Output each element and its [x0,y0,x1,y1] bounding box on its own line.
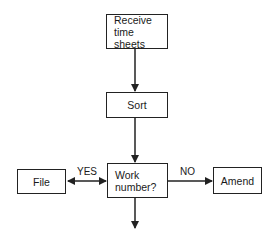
sort-box: Sort [106,92,168,118]
no-edge-label: NO [180,166,195,177]
amend-box: Amend [213,167,262,194]
receive-time-sheets-label: Receive time sheets [114,14,167,50]
receive-time-sheets-box: Receive time sheets [106,14,168,49]
file-label: File [33,176,50,188]
work-number-label: Work number? [115,169,156,193]
amend-label: Amend [221,175,254,187]
sort-label: Sort [127,99,146,111]
yes-edge-label: YES [77,166,97,177]
file-box: File [17,169,66,194]
work-number-decision-box: Work number? [107,163,168,198]
